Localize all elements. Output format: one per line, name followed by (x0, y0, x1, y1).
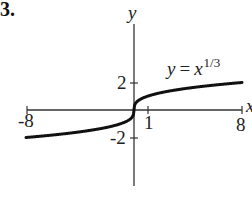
cube-root-graph-figure: 3. -8 1 8 2 -2 y x y=x1/3 (0, 0, 252, 212)
x-tick-label-neg8: -8 (18, 110, 34, 131)
chart-plot: -8 1 8 2 -2 y x y=x1/3 (0, 0, 252, 212)
equation-exponent: 1/3 (204, 55, 221, 70)
panel-label: 3. (0, 0, 15, 21)
x-tick-label-1: 1 (144, 112, 154, 133)
x-axis-label: x (245, 95, 252, 116)
y-tick-label-2: 2 (117, 72, 127, 93)
x-tick-label-8: 8 (236, 114, 246, 135)
equation-op: = (179, 58, 190, 79)
y-tick-label-neg2: -2 (110, 127, 126, 148)
equation-label: y=x1/3 (165, 55, 220, 79)
equation-lhs: y (165, 58, 176, 79)
equation-base: x (193, 58, 203, 79)
y-axis-label: y (126, 2, 137, 23)
